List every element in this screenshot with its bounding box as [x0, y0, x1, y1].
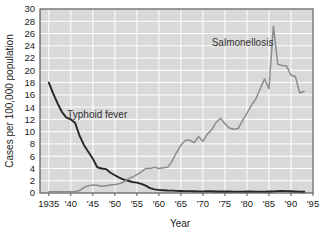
y-axis-title: Cases per 100,000 population: [4, 34, 15, 167]
x-tick-label-1975: '75: [219, 198, 231, 209]
y-tick-label-14: 14: [24, 102, 35, 113]
x-tick-label-1990: '90: [285, 198, 297, 209]
y-axis-tick-labels: 024681012141618202224262830: [24, 3, 35, 198]
y-tick-label-8: 8: [30, 138, 35, 149]
y-tick-label-24: 24: [24, 40, 35, 51]
x-tick-label-1995: '95: [307, 198, 319, 209]
y-tick-label-20: 20: [24, 65, 35, 76]
y-tick-label-4: 4: [30, 163, 35, 174]
annotation-salmonellosis: Salmonellosis: [212, 37, 274, 48]
x-tick-label-1940: '40: [65, 198, 77, 209]
y-tick-label-28: 28: [24, 16, 35, 27]
y-tick-label-30: 30: [24, 3, 35, 14]
x-tick-label-1985: '85: [263, 198, 275, 209]
y-tick-label-6: 6: [30, 151, 35, 162]
x-tick-label-1965: '65: [175, 198, 187, 209]
x-tick-label-1960: '60: [153, 198, 165, 209]
x-tick-label-1980: '80: [241, 198, 253, 209]
x-tick-label-1945: '45: [87, 198, 99, 209]
x-tick-label-1935: 1935: [38, 198, 59, 209]
x-axis-title: Year: [170, 218, 191, 229]
y-tick-label-26: 26: [24, 28, 35, 39]
y-tick-label-16: 16: [24, 89, 35, 100]
x-axis-tick-labels: 1935'40'45'50'55'60'65'70'75'80'85'90'95: [38, 193, 319, 209]
y-tick-label-10: 10: [24, 126, 35, 137]
incidence-line-chart: 024681012141618202224262830 1935'40'45'5…: [0, 0, 329, 237]
y-tick-label-2: 2: [30, 175, 35, 186]
y-tick-label-12: 12: [24, 114, 35, 125]
annotation-typhoid-fever: Typhoid fever: [67, 109, 128, 120]
x-tick-label-1955: '55: [131, 198, 143, 209]
chart-figure: 024681012141618202224262830 1935'40'45'5…: [0, 0, 329, 237]
x-tick-label-1950: '50: [109, 198, 121, 209]
y-tick-label-0: 0: [30, 187, 35, 198]
y-tick-label-22: 22: [24, 52, 35, 63]
x-tick-label-1970: '70: [197, 198, 209, 209]
y-tick-label-18: 18: [24, 77, 35, 88]
